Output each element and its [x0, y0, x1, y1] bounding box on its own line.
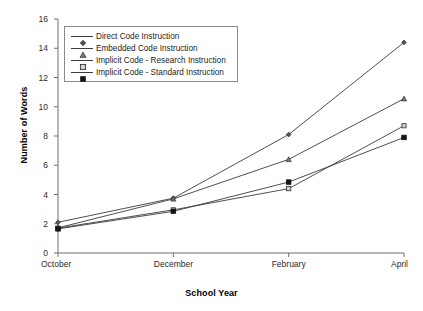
y-tick-label: 12	[22, 74, 48, 82]
series-line	[58, 99, 404, 228]
legend-item-label: Embedded Code Instruction	[96, 44, 198, 53]
x-tick-label: October	[41, 260, 71, 269]
legend-item[interactable]: Direct Code Instruction	[65, 30, 232, 42]
legend-item-label: Implicit Code - Research Instruction	[96, 56, 226, 65]
series-3	[56, 124, 406, 231]
x-tick-label: April	[391, 260, 408, 269]
y-tick-label: 14	[22, 44, 48, 52]
y-tick-label: 0	[22, 249, 48, 257]
line-chart: Number of Words School Year 024681012141…	[0, 0, 423, 311]
y-tick-label: 2	[22, 220, 48, 228]
x-tick-label: December	[154, 260, 193, 269]
x-tick-label: February	[272, 260, 306, 269]
series-4	[56, 135, 407, 231]
legend-marker	[71, 68, 93, 77]
filled-square-marker-icon	[79, 75, 87, 83]
y-tick-label: 8	[22, 132, 48, 140]
y-tick-label: 4	[22, 191, 48, 199]
filled-square-marker-icon	[56, 227, 61, 232]
series-line	[58, 126, 404, 228]
legend: Direct Code InstructionEmbedded Code Ins…	[64, 26, 238, 82]
legend-item[interactable]: Implicit Code - Research Instruction	[65, 54, 232, 66]
legend-symbol	[79, 69, 87, 87]
open-square-marker-icon	[402, 124, 406, 128]
triangle-marker-icon	[401, 96, 406, 101]
legend-item-label: Direct Code Instruction	[96, 32, 179, 41]
legend-item[interactable]: Implicit Code - Standard Instruction	[65, 66, 232, 78]
legend-item[interactable]: Embedded Code Instruction	[65, 42, 232, 54]
filled-square-marker-icon	[286, 180, 291, 185]
triangle-marker-icon	[286, 157, 291, 162]
legend-marker	[71, 44, 93, 53]
filled-square-marker-icon	[402, 135, 407, 140]
legend-item-label: Implicit Code - Standard Instruction	[96, 68, 224, 77]
series-2	[55, 96, 406, 230]
filled-square-marker-icon	[171, 209, 176, 214]
open-square-marker-icon	[287, 187, 291, 191]
legend-marker	[71, 56, 93, 65]
y-tick-label: 6	[22, 161, 48, 169]
legend-marker	[71, 32, 93, 41]
y-tick-label: 16	[22, 15, 48, 23]
y-tick-label: 10	[22, 103, 48, 111]
